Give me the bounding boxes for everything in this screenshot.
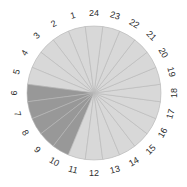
pie-slices-group xyxy=(27,26,161,160)
pie-chart-canvas xyxy=(0,0,187,187)
pie-chart-figure: 123456789101112131415161718192021222324 xyxy=(0,0,187,187)
